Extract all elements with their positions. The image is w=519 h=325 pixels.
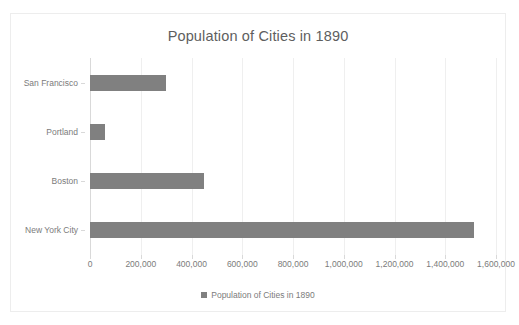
x-tick-label: 1,600,000 [477, 259, 515, 269]
legend-swatch-icon [201, 292, 207, 298]
x-tick-label: 400,000 [176, 259, 207, 269]
category-tick [81, 83, 85, 84]
category-tick [81, 181, 85, 182]
x-tick-label: 200,000 [125, 259, 156, 269]
bar[interactable] [90, 75, 166, 91]
category-label: Portland [46, 107, 78, 156]
bar[interactable] [90, 173, 204, 189]
x-tick-mark [344, 255, 345, 259]
chart-title: Population of Cities in 1890 [11, 28, 505, 44]
x-tick-mark [242, 255, 243, 259]
category-axis: San FranciscoPortlandBostonNew York City [11, 58, 85, 255]
bar-row [90, 157, 496, 206]
category-tick [81, 132, 85, 133]
x-tick-label: 1,400,000 [426, 259, 464, 269]
x-tick-mark [445, 255, 446, 259]
x-tick-label: 600,000 [227, 259, 258, 269]
bar[interactable] [90, 222, 474, 238]
x-tick-mark [293, 255, 294, 259]
value-axis: 0200,000400,000600,000800,0001,000,0001,… [90, 259, 496, 275]
x-tick-mark [90, 255, 91, 259]
bar-series [90, 58, 496, 255]
legend-label: Population of Cities in 1890 [211, 290, 315, 300]
x-tick-mark [141, 255, 142, 259]
chart-legend: Population of Cities in 1890 [11, 290, 505, 300]
x-tick-mark [496, 255, 497, 259]
category-label: New York City [25, 206, 78, 255]
x-tick-mark [192, 255, 193, 259]
category-tick [81, 230, 85, 231]
x-tick-label: 1,000,000 [325, 259, 363, 269]
plot-area [90, 58, 496, 255]
category-label: Boston [52, 157, 78, 206]
bar-row [90, 206, 496, 255]
x-tick-label: 0 [88, 259, 93, 269]
gridline [496, 58, 497, 255]
x-tick-label: 1,200,000 [376, 259, 414, 269]
chart-frame: Population of Cities in 1890 San Francis… [10, 13, 506, 312]
category-label: San Francisco [24, 58, 78, 107]
x-tick-label: 800,000 [278, 259, 309, 269]
x-tick-mark [395, 255, 396, 259]
bar[interactable] [90, 124, 105, 140]
bar-row [90, 107, 496, 156]
bar-row [90, 58, 496, 107]
